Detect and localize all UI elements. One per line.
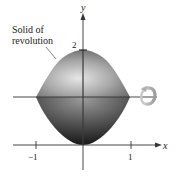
y-tick-label-2: 2 (72, 40, 77, 50)
x-axis-arrow-icon (155, 143, 162, 148)
y-axis-arrow-icon (81, 13, 86, 20)
y-axis-label: y (80, 2, 86, 13)
rotation-arrow-icon (141, 86, 155, 104)
x-axis-label: x (162, 140, 168, 151)
x-tick-label-1: 1 (128, 152, 133, 162)
x-tick-label-neg1: −1 (28, 152, 38, 162)
callout-leader-line (46, 47, 56, 59)
solid-of-revolution-figure: y x 2 −1 1 Solid of revolution (0, 0, 177, 178)
callout-line-1: Solid of (12, 24, 45, 35)
callout-line-2: revolution (12, 35, 53, 46)
